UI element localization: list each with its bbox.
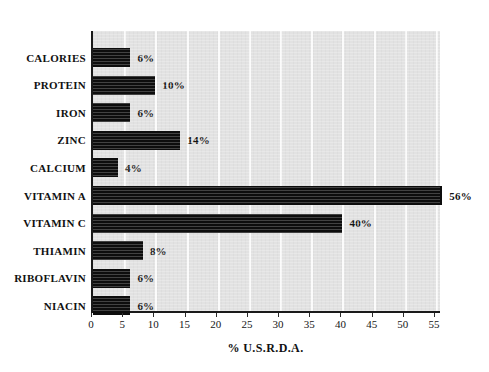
tick-label-55: 55 bbox=[429, 318, 440, 330]
tick-mark-5 bbox=[122, 313, 123, 317]
tick-mark-30 bbox=[278, 313, 279, 317]
tick-label-20: 20 bbox=[210, 318, 221, 330]
category-label-vitamin-a: VITAMIN A bbox=[0, 190, 86, 202]
tick-mark-35 bbox=[309, 313, 310, 317]
bar-value-label: 6% bbox=[137, 107, 154, 119]
tick-mark-15 bbox=[185, 313, 186, 317]
x-axis-title: % U.S.R.D.A. bbox=[91, 341, 440, 356]
tick-mark-45 bbox=[372, 313, 373, 317]
bar-row: 6% bbox=[93, 103, 442, 122]
tick-label-10: 10 bbox=[148, 318, 159, 330]
bar-value-label: 56% bbox=[449, 190, 472, 202]
plot-area: 6%10%6%14%4%56%40%8%6%6% bbox=[91, 31, 440, 313]
bar-calories bbox=[93, 48, 130, 67]
bar-row: 6% bbox=[93, 269, 442, 288]
category-label-zinc: ZINC bbox=[0, 134, 86, 146]
tick-mark-0 bbox=[91, 313, 92, 317]
bar-value-label: 6% bbox=[137, 300, 154, 312]
bar-vitamin-a bbox=[93, 186, 442, 205]
bar-value-label: 40% bbox=[349, 217, 372, 229]
bar-row: 56% bbox=[93, 186, 442, 205]
bar-value-label: 14% bbox=[187, 134, 210, 146]
bar-row: 8% bbox=[93, 241, 442, 260]
bar-riboflavin bbox=[93, 269, 130, 288]
bar-protein bbox=[93, 76, 155, 95]
bar-iron bbox=[93, 103, 130, 122]
bar-calcium bbox=[93, 158, 118, 177]
bar-value-label: 6% bbox=[137, 272, 154, 284]
bar-vitamin-c bbox=[93, 214, 342, 233]
bar-row: 40% bbox=[93, 214, 442, 233]
category-label-vitamin-c: VITAMIN C bbox=[0, 217, 86, 229]
category-label-iron: IRON bbox=[0, 107, 86, 119]
bar-chart-figure: 6%10%6%14%4%56%40%8%6%6% CALORIESPROTEIN… bbox=[0, 0, 489, 372]
bar-value-label: 4% bbox=[125, 162, 142, 174]
bar-value-label: 10% bbox=[162, 79, 185, 91]
tick-label-40: 40 bbox=[335, 318, 346, 330]
tick-label-30: 30 bbox=[273, 318, 284, 330]
category-label-thiamin: THIAMIN bbox=[0, 245, 86, 257]
bar-value-label: 6% bbox=[137, 52, 154, 64]
tick-mark-55 bbox=[434, 313, 435, 317]
bar-zinc bbox=[93, 131, 180, 150]
bar-row: 14% bbox=[93, 131, 442, 150]
bar-row: 4% bbox=[93, 158, 442, 177]
category-label-niacin: NIACIN bbox=[0, 300, 86, 312]
category-label-calcium: CALCIUM bbox=[0, 162, 86, 174]
tick-label-15: 15 bbox=[179, 318, 190, 330]
bar-thiamin bbox=[93, 241, 143, 260]
tick-label-35: 35 bbox=[304, 318, 315, 330]
category-label-riboflavin: RIBOFLAVIN bbox=[0, 272, 86, 284]
category-label-protein: PROTEIN bbox=[0, 79, 86, 91]
bar-value-label: 8% bbox=[150, 245, 167, 257]
tick-label-50: 50 bbox=[397, 318, 408, 330]
tick-mark-50 bbox=[403, 313, 404, 317]
x-axis-tick-labels: 0510152025303540455055 bbox=[0, 318, 489, 334]
bar-row: 6% bbox=[93, 48, 442, 67]
tick-mark-10 bbox=[153, 313, 154, 317]
tick-label-25: 25 bbox=[241, 318, 252, 330]
tick-label-5: 5 bbox=[119, 318, 125, 330]
tick-mark-40 bbox=[340, 313, 341, 317]
tick-mark-25 bbox=[247, 313, 248, 317]
tick-label-0: 0 bbox=[88, 318, 94, 330]
bar-row: 10% bbox=[93, 76, 442, 95]
category-label-calories: CALORIES bbox=[0, 52, 86, 64]
tick-mark-20 bbox=[216, 313, 217, 317]
tick-label-45: 45 bbox=[366, 318, 377, 330]
